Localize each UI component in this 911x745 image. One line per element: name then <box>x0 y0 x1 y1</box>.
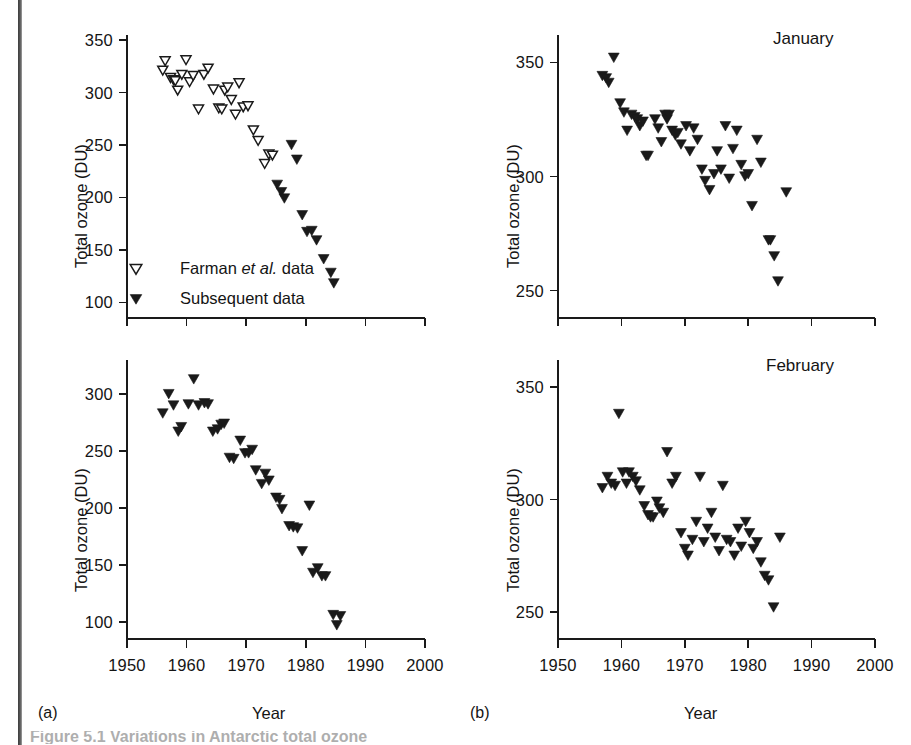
data-point <box>235 436 246 445</box>
data-point <box>608 53 619 62</box>
series-farman <box>158 56 278 169</box>
y-tick-label: 200 <box>85 499 113 517</box>
panel-label-b: (b) <box>470 704 490 722</box>
data-point <box>755 558 766 567</box>
data-point <box>695 472 706 481</box>
data-point <box>662 448 673 457</box>
x-tick-label: 1970 <box>666 656 704 674</box>
panel-b-february: Total ozone (DU) 25030035019501960197019… <box>490 352 900 652</box>
data-point <box>709 169 720 178</box>
data-point <box>775 533 786 542</box>
data-point <box>615 99 626 108</box>
x-tick-label: 1950 <box>539 656 577 674</box>
figure-caption-text: Figure 5.1 Variations in Antarctic total… <box>30 731 367 744</box>
legend-label-farman: Farman et al. data <box>162 259 314 278</box>
data-point <box>631 477 642 486</box>
legend-label-farman-prefix: Farman <box>180 259 241 277</box>
data-point <box>325 268 336 277</box>
series-subsequent <box>157 375 345 630</box>
data-point <box>622 126 633 135</box>
data-point <box>291 155 302 164</box>
data-point <box>297 547 308 556</box>
y-tick-label: 300 <box>85 84 113 102</box>
y-tick-label: 150 <box>85 556 113 574</box>
y-tick-label: 250 <box>85 136 113 154</box>
data-point <box>163 389 174 398</box>
legend: Farman et al. data Subsequent data <box>128 258 314 309</box>
data-point <box>173 86 183 95</box>
x-tick-label: 1980 <box>287 656 325 674</box>
page-scan-edge-artifact <box>18 0 22 745</box>
data-point <box>710 533 721 542</box>
x-tick-label: 1960 <box>603 656 641 674</box>
panel-annotation-january: January <box>773 29 833 49</box>
data-point <box>736 160 747 169</box>
data-point <box>773 277 784 286</box>
ozone-figure: Total ozone (DU) 100150200250300350 Farm… <box>0 0 911 745</box>
data-point <box>752 135 763 144</box>
scatter-canvas-b-january: 250300350 <box>490 18 900 338</box>
x-tick-label: 1990 <box>347 656 385 674</box>
data-point <box>768 603 779 612</box>
data-point <box>260 160 270 169</box>
y-tick-label: 100 <box>85 613 113 631</box>
data-point <box>729 551 740 560</box>
data-point <box>706 508 717 517</box>
data-point <box>297 211 308 220</box>
data-point <box>318 255 329 264</box>
filled-down-triangle-icon <box>128 292 162 306</box>
open-down-triangle-icon <box>128 262 162 276</box>
data-point <box>183 400 194 409</box>
y-tick-label: 250 <box>516 282 544 300</box>
data-point <box>676 529 687 538</box>
data-point <box>597 484 608 493</box>
data-point <box>744 529 755 538</box>
x-tick-label: 2000 <box>856 656 894 674</box>
x-tick-label: 2000 <box>406 656 444 674</box>
data-point <box>717 481 728 490</box>
data-point <box>234 79 244 88</box>
legend-label-farman-italic: et al. <box>241 259 277 277</box>
plot-area-b-february: 250300350195019601970198019902000 <box>490 352 900 652</box>
y-tick-label: 100 <box>85 293 113 311</box>
data-point <box>684 147 695 156</box>
data-point <box>720 122 731 131</box>
data-point <box>702 524 713 533</box>
data-point <box>687 535 698 544</box>
y-tick-label: 300 <box>85 385 113 403</box>
data-point <box>277 504 288 513</box>
x-tick-label: 1980 <box>729 656 767 674</box>
data-point <box>634 486 645 495</box>
data-point <box>331 621 342 630</box>
y-tick-label: 150 <box>85 241 113 259</box>
data-point <box>688 124 699 133</box>
data-point <box>733 524 744 533</box>
data-point <box>208 85 218 94</box>
data-point <box>697 165 708 174</box>
data-point <box>698 538 709 547</box>
series-subsequent <box>597 409 785 612</box>
data-point <box>328 279 339 288</box>
data-point <box>712 147 723 156</box>
y-tick-label: 350 <box>516 53 544 71</box>
data-point <box>603 78 614 87</box>
scatter-canvas-a-bottom: 100150200250300195019601970198019902000 <box>58 352 458 652</box>
data-point <box>613 409 624 418</box>
data-point <box>286 140 297 149</box>
legend-item-subsequent: Subsequent data <box>128 288 314 309</box>
data-point <box>248 126 258 135</box>
data-point <box>724 174 735 183</box>
data-point <box>230 110 240 119</box>
data-point <box>714 547 725 556</box>
data-point <box>692 135 703 144</box>
x-tick-label: 1950 <box>108 656 146 674</box>
data-point <box>621 479 632 488</box>
data-point <box>704 185 715 194</box>
panel-b-january: Total ozone (DU) 250300350 <box>490 18 900 338</box>
data-point <box>700 176 711 185</box>
data-point <box>256 479 267 488</box>
data-point <box>683 551 694 560</box>
y-tick-label: 300 <box>516 168 544 186</box>
data-point <box>639 502 650 511</box>
plot-area-b-january: 250300350 <box>490 18 900 338</box>
